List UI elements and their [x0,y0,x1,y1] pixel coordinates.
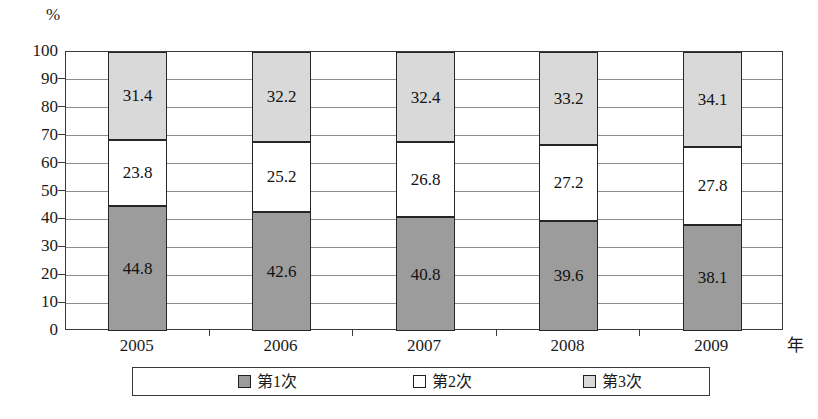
y-tick-mark-40 [58,218,65,219]
bar-value-label: 34.1 [698,91,728,108]
y-tick-label-40: 40 [12,209,58,226]
y-tick-label-0: 0 [12,321,58,338]
bar-2007[interactable]: 40.826.832.4 [396,52,455,331]
dark-gray-swatch-icon [238,375,251,388]
bar-2006[interactable]: 42.625.232.2 [252,52,311,331]
bar-segment-2005-第2次[interactable]: 23.8 [108,140,167,206]
x-tick-mark-2 [352,330,353,336]
y-tick-label-100: 100 [12,42,58,59]
y-tick-label-70: 70 [12,126,58,143]
bar-segment-2008-第1次[interactable]: 39.6 [539,221,598,331]
y-tick-label-10: 10 [12,293,58,310]
bar-2008[interactable]: 39.627.233.2 [539,52,598,331]
y-tick-label-20: 20 [12,265,58,282]
bar-value-label: 39.6 [554,267,584,284]
y-tick-label-50: 50 [12,182,58,199]
x-tick-label-2007: 2007 [384,336,464,355]
bar-segment-2006-第3次[interactable]: 32.2 [252,52,311,142]
bar-value-label: 31.4 [123,87,153,104]
legend-item-第3次[interactable]: 第3次 [583,368,642,395]
y-axis-unit-label: % [46,6,60,23]
x-tick-mark-4 [639,330,640,336]
bar-value-label: 27.8 [698,177,728,194]
bar-segment-2007-第3次[interactable]: 32.4 [396,52,455,142]
x-tick-label-2005: 2005 [97,336,177,355]
legend-item-label: 第1次 [257,374,297,390]
bar-segment-2009-第3次[interactable]: 34.1 [683,52,742,147]
white-swatch-icon [413,375,426,388]
bar-value-label: 27.2 [554,174,584,191]
x-tick-label-2009: 2009 [671,336,751,355]
legend: 第1次第2次第3次 [132,367,710,396]
y-tick-mark-30 [58,246,65,247]
bar-2005[interactable]: 44.823.831.4 [108,52,167,331]
legend-item-label: 第3次 [602,374,642,390]
bar-value-label: 38.1 [698,269,728,286]
x-axis-title: 年 [787,336,804,355]
bar-value-label: 42.6 [267,263,297,280]
bar-value-label: 32.2 [267,88,297,105]
bar-segment-2006-第1次[interactable]: 42.6 [252,212,311,331]
bar-segment-2009-第1次[interactable]: 38.1 [683,225,742,331]
y-tick-mark-50 [58,190,65,191]
bar-value-label: 26.8 [411,171,441,188]
y-tick-label-80: 80 [12,98,58,115]
bar-segment-2007-第1次[interactable]: 40.8 [396,217,455,331]
bar-segment-2007-第2次[interactable]: 26.8 [396,142,455,217]
bar-segment-2008-第2次[interactable]: 27.2 [539,145,598,221]
legend-item-第2次[interactable]: 第2次 [413,368,472,395]
stacked-bar-chart: % 44.823.831.442.625.232.240.826.832.439… [0,0,818,419]
bar-value-label: 25.2 [267,168,297,185]
y-tick-label-30: 30 [12,237,58,254]
y-tick-mark-10 [58,302,65,303]
x-tick-mark-3 [496,330,497,336]
bar-segment-2005-第3次[interactable]: 31.4 [108,52,167,140]
bar-value-label: 40.8 [411,266,441,283]
bar-segment-2009-第2次[interactable]: 27.8 [683,147,742,225]
x-tick-label-2008: 2008 [528,336,608,355]
y-tick-label-90: 90 [12,70,58,87]
bar-value-label: 44.8 [123,260,153,277]
bar-value-label: 23.8 [123,164,153,181]
bar-segment-2005-第1次[interactable]: 44.8 [108,206,167,331]
x-tick-mark-1 [209,330,210,336]
y-tick-label-60: 60 [12,154,58,171]
y-tick-mark-80 [58,106,65,107]
legend-item-label: 第2次 [432,374,472,390]
bar-segment-2008-第3次[interactable]: 33.2 [539,52,598,145]
x-tick-label-2006: 2006 [240,336,320,355]
y-tick-mark-90 [58,78,65,79]
bar-value-label: 32.4 [411,89,441,106]
y-tick-mark-70 [58,134,65,135]
bar-value-label: 33.2 [554,90,584,107]
bar-2009[interactable]: 38.127.834.1 [683,52,742,331]
y-tick-mark-20 [58,274,65,275]
plot-area: 44.823.831.442.625.232.240.826.832.439.6… [65,51,783,330]
legend-item-第1次[interactable]: 第1次 [238,368,297,395]
y-tick-mark-60 [58,162,65,163]
light-gray-swatch-icon [583,375,596,388]
bar-segment-2006-第2次[interactable]: 25.2 [252,142,311,212]
